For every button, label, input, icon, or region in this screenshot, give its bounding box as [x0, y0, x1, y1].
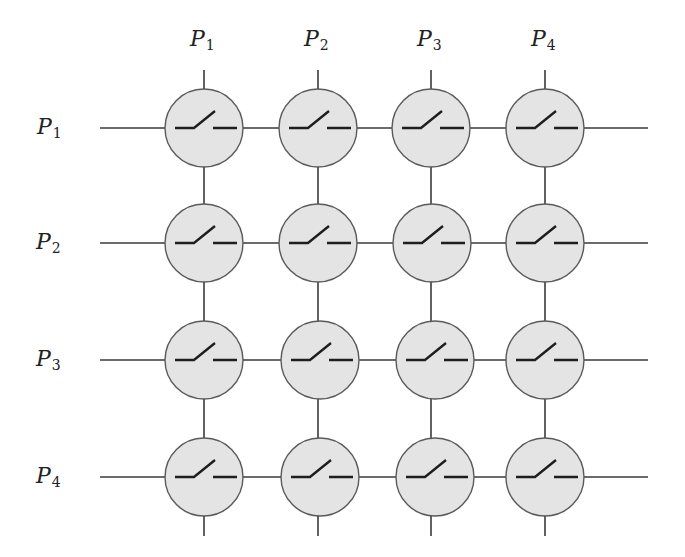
switch-node-r4-c4 — [506, 438, 584, 516]
switch-node-r2-c4 — [506, 204, 584, 282]
switch-node-r3-c2 — [281, 321, 359, 399]
row-label-2: P2 — [36, 231, 61, 255]
column-label-3: P3 — [417, 28, 442, 52]
column-label-4: P4 — [531, 28, 556, 52]
switch-node-r1-c2 — [279, 89, 357, 167]
switch-node-r2-c1 — [165, 204, 243, 282]
switch-node-r1-c1 — [165, 89, 243, 167]
switch-node-r2-c3 — [393, 204, 471, 282]
row-label-1: P1 — [37, 116, 62, 140]
column-label-2: P2 — [304, 28, 329, 52]
row-label-3: P3 — [36, 348, 61, 372]
switch-node-r1-c4 — [506, 89, 584, 167]
switch-node-r4-c1 — [165, 438, 243, 516]
crossbar-canvas — [0, 0, 685, 557]
switch-node-r2-c2 — [279, 204, 357, 282]
switch-node-r3-c4 — [506, 321, 584, 399]
switch-node-r4-c3 — [396, 438, 474, 516]
switch-node-r3-c3 — [396, 321, 474, 399]
switch-node-r3-c1 — [165, 321, 243, 399]
switch-node-r1-c3 — [392, 89, 470, 167]
switch-node-r4-c2 — [281, 438, 359, 516]
row-label-4: P4 — [36, 465, 61, 489]
crossbar-diagram: P1 P2 P3 P4 P1 P2 P3 P4 — [0, 0, 685, 557]
column-label-1: P1 — [190, 28, 215, 52]
